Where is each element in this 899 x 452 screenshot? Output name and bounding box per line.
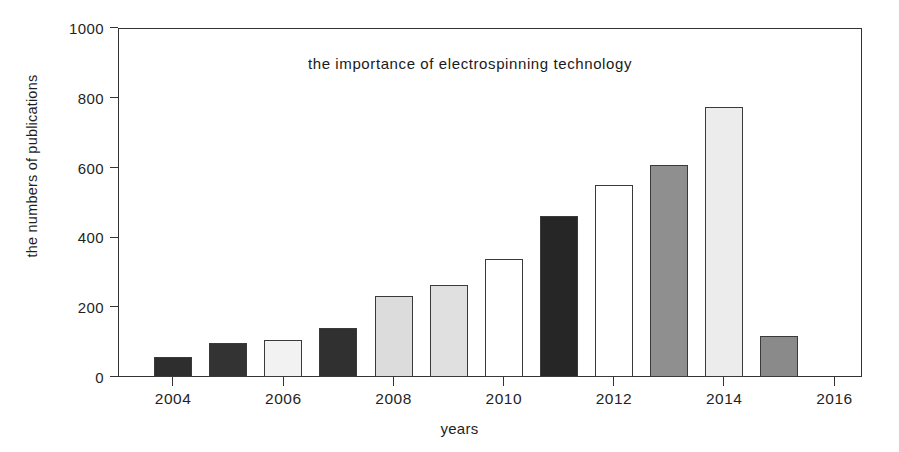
bar-2014	[705, 107, 743, 377]
bars-layer	[118, 28, 862, 377]
x-axis-tick-label: 2010	[459, 390, 549, 408]
x-axis-tick-label: 2012	[569, 390, 659, 408]
y-axis-tick-label: 200	[0, 299, 104, 316]
y-axis-tick-label: 800	[0, 89, 104, 106]
x-axis-tick-label: 2016	[789, 390, 879, 408]
y-axis-tick	[110, 306, 118, 307]
bar-2009	[430, 285, 468, 377]
y-axis-tick-label: 400	[0, 229, 104, 246]
x-axis-tick-label: 2006	[238, 390, 328, 408]
y-axis-tick	[110, 27, 118, 28]
bar-2015	[760, 336, 798, 377]
y-axis-tick-label: 0	[0, 369, 104, 386]
bar-chart-figure: the numbers of publications 020040060080…	[0, 0, 899, 452]
bar-2010	[485, 259, 523, 377]
bar-2011	[540, 216, 578, 377]
x-axis-tick	[613, 377, 614, 386]
x-axis-tick	[834, 377, 835, 386]
bar-2005	[209, 343, 247, 377]
y-axis-tick	[110, 97, 118, 98]
x-axis-tick	[283, 377, 284, 386]
chart-title: the importance of electrospinning techno…	[190, 55, 750, 72]
bar-2007	[319, 328, 357, 377]
y-axis-tick-label: 1000	[0, 20, 104, 37]
y-axis-tick	[110, 376, 118, 377]
x-axis-tick-label: 2014	[679, 390, 769, 408]
y-axis-tick-label: 600	[0, 159, 104, 176]
bar-2004	[154, 357, 192, 377]
x-axis-tick	[172, 377, 173, 386]
x-axis-tick-label: 2008	[349, 390, 439, 408]
y-axis-tick	[110, 167, 118, 168]
bar-2008	[375, 296, 413, 377]
x-axis-tick	[723, 377, 724, 386]
y-axis-tick	[110, 237, 118, 238]
x-axis-title: years	[0, 420, 899, 437]
bar-2006	[264, 340, 302, 377]
bar-2012	[595, 185, 633, 377]
x-axis-tick	[393, 377, 394, 386]
x-axis-tick	[503, 377, 504, 386]
x-axis-tick-label: 2004	[128, 390, 218, 408]
bar-2013	[650, 165, 688, 377]
